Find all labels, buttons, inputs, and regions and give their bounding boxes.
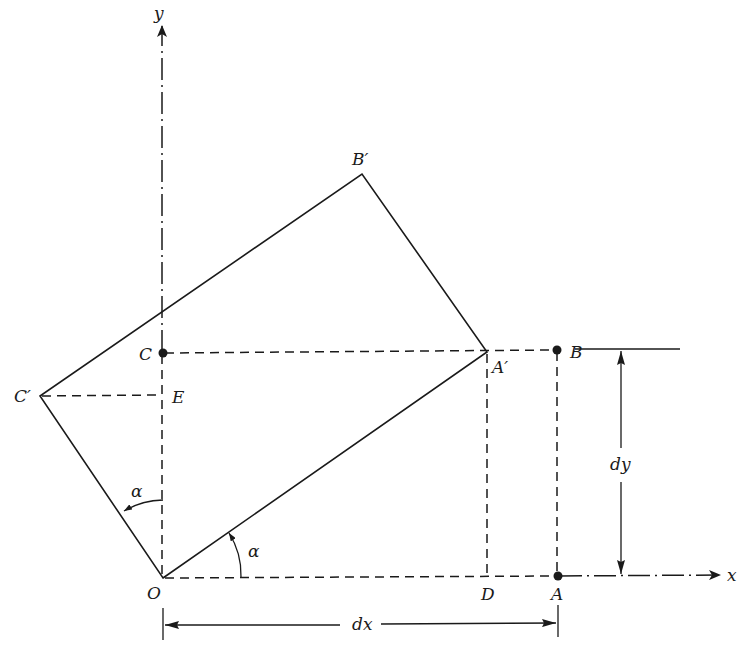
label-D: D: [480, 584, 495, 604]
label-C-prime: C′: [14, 386, 31, 406]
label-B-prime: B′: [351, 149, 368, 169]
label-B: B: [569, 342, 583, 362]
label-A-prime: A′: [490, 357, 508, 377]
line-Cprime-to-E: [42, 395, 160, 396]
x-axis-line: [560, 575, 720, 576]
label-dx: dx: [352, 614, 373, 634]
point-B: [553, 346, 562, 355]
line-C-to-B: [165, 350, 555, 353]
point-C: [159, 349, 168, 358]
label-C: C: [139, 344, 152, 364]
label-alpha-x: α: [248, 541, 260, 561]
label-O: O: [147, 583, 161, 603]
label-A: A: [549, 584, 563, 604]
label-dy: dy: [610, 454, 631, 474]
rotation-diagram: y x B′ C C′ E A′ B O D A α α dy dx: [0, 0, 750, 655]
angle-arc-alpha-y: [124, 500, 163, 511]
angle-arc-alpha-x: [229, 533, 241, 577]
dx-dimension-right: [381, 623, 556, 624]
point-A: [554, 572, 563, 581]
x-axis-label: x: [727, 565, 737, 585]
label-alpha-y: α: [131, 481, 143, 501]
rotated-rectangle: [40, 174, 487, 578]
y-axis-label: y: [153, 3, 164, 23]
label-E: E: [171, 387, 185, 407]
x-axis-dashed-segment: [165, 576, 556, 578]
